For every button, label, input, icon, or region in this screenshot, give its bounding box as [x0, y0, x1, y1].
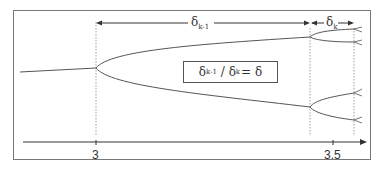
feigenbaum-ratio-box: δk-1 / δk= δ: [183, 61, 278, 83]
branch-period-1: [20, 68, 96, 72]
arrowhead-left-icon: [96, 21, 102, 26]
arrowhead-right-icon: [304, 21, 310, 26]
subscript: k: [236, 68, 240, 76]
branch-period-8-stubs: [354, 27, 362, 123]
arrowhead-left-icon: [311, 21, 317, 26]
figure-frame: [14, 11, 371, 160]
branch-period-4-b: [310, 37, 354, 42]
interval-label-k-1: δk-1: [191, 16, 209, 31]
x-tick-label-3-5: 3.5: [324, 148, 341, 162]
slash: /: [217, 65, 229, 79]
delta-symbol: δ: [199, 65, 206, 79]
delta-symbol: δ: [229, 65, 236, 79]
subscript: k-1: [206, 68, 217, 76]
subscript: k-1: [198, 23, 209, 31]
arrowhead-right-icon: [348, 21, 354, 26]
interval-label-k: δk: [326, 16, 337, 31]
subscript: k: [333, 23, 337, 31]
x-axis-arrowhead-icon: [360, 139, 367, 145]
branch-period-4-d: [310, 107, 354, 120]
equals-delta: = δ: [241, 65, 262, 79]
x-tick-label-3: 3: [92, 148, 99, 162]
branch-period-4-c: [310, 93, 354, 107]
